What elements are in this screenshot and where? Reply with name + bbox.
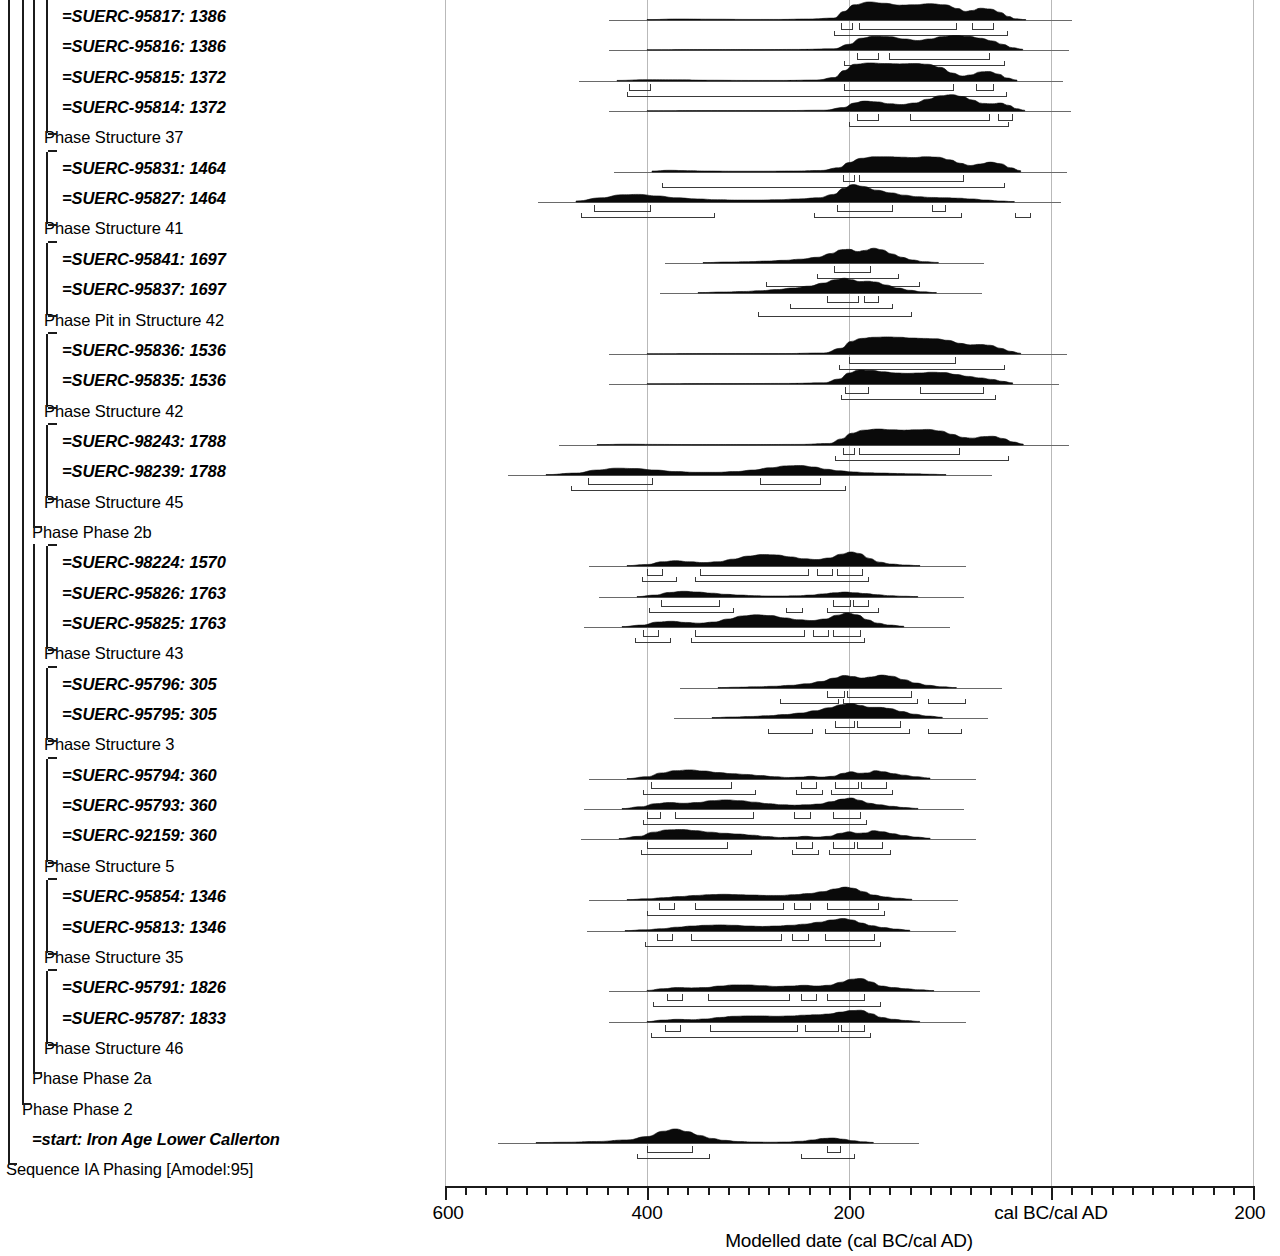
axis-tick-label: 200 [833, 1202, 864, 1224]
probability-distribution [618, 788, 922, 810]
date-row-label: =SUERC-95826: 1763 [62, 578, 226, 608]
probability-distribution [593, 424, 1027, 446]
phase-row-label: Phase Phase 2a [32, 1063, 152, 1093]
range-bar-95 [758, 312, 912, 317]
date-row-label: =SUERC-95837: 1697 [62, 274, 226, 304]
axis-major-tick [445, 1186, 447, 1200]
axis-minor-tick [506, 1186, 508, 1195]
date-row-label: =start: Iron Age Lower Callerton [32, 1124, 280, 1154]
structure-bracket [46, 668, 57, 741]
range-bar-68 [864, 296, 879, 303]
distribution-curve [536, 1129, 873, 1143]
probability-distribution [623, 879, 916, 901]
row-label-text: Phase Structure 41 [44, 219, 183, 237]
date-row-label: =SUERC-92159: 360 [62, 820, 217, 850]
row-label-text: Phase Phase 2b [32, 523, 152, 541]
structure-bracket [46, 759, 57, 862]
range-bar-95 [801, 1154, 856, 1159]
date-row-label: =SUERC-95854: 1346 [62, 881, 226, 911]
row-label-text: =start: Iron Age Lower Callerton [32, 1130, 280, 1148]
axis-minor-tick [970, 1186, 972, 1195]
distribution-curve [625, 918, 910, 931]
bracket-top-tick [48, 969, 57, 971]
axis-minor-tick [1233, 1186, 1235, 1195]
row-label-text: Phase Structure 37 [44, 128, 183, 146]
range-bar-95 [581, 213, 714, 218]
row-label-text: =SUERC-95841: 1697 [62, 250, 226, 268]
range-bar-95 [637, 1154, 710, 1159]
distribution-curve [647, 95, 1025, 111]
range-bar-68 [827, 296, 859, 303]
range-bar-68 [910, 114, 991, 121]
phase2a-bracket-line [33, 544, 35, 1074]
phase2a-bracket-foot [33, 1072, 42, 1074]
row-label-text: Phase Structure 5 [44, 857, 174, 875]
axis-minor-tick [950, 1186, 952, 1195]
probability-distribution [621, 910, 914, 932]
axis-minor-tick [748, 1186, 750, 1195]
bracket-bottom-tick [48, 953, 57, 955]
axis-minor-tick [809, 1186, 811, 1195]
model-label-column: =SUERC-95817: 1386=SUERC-95816: 1386=SUE… [0, 0, 440, 1180]
structure-bracket [46, 425, 57, 498]
range-bar-95 [849, 122, 1009, 127]
row-label-text: =SUERC-95826: 1763 [62, 584, 226, 602]
axis-minor-tick [829, 1186, 831, 1195]
range-bar-95 [825, 729, 910, 734]
row-label-text: =SUERC-95794: 360 [62, 766, 217, 784]
probability-distribution [643, 333, 1025, 355]
bracket-bottom-tick [48, 862, 57, 864]
axis-tick-label: cal BC/cal AD [994, 1202, 1108, 1224]
range-bar-95 [814, 213, 962, 218]
axis-minor-tick [607, 1186, 609, 1195]
axis-minor-tick [1132, 1186, 1134, 1195]
bracket-top-tick [48, 878, 57, 880]
axis-title: Modelled date (cal BC/cal AD) [445, 1230, 1253, 1252]
probability-distribution [643, 29, 1027, 51]
date-row-label: =SUERC-95827: 1464 [62, 183, 226, 213]
bracket-top-tick [48, 666, 57, 668]
probability-distribution [623, 545, 924, 567]
probability-distribution [714, 667, 960, 689]
probability-distribution [643, 1001, 924, 1023]
axis-minor-tick [1213, 1186, 1215, 1195]
axis-tick-label: 200 [1234, 1202, 1265, 1224]
axis-minor-tick [728, 1186, 730, 1195]
phase-row-label: Phase Structure 46 [44, 1033, 183, 1063]
date-row-label: =SUERC-95813: 1346 [62, 912, 226, 942]
axis-major-tick [647, 1186, 649, 1200]
axis-minor-tick [526, 1186, 528, 1195]
range-bar-68 [833, 630, 861, 637]
row-label-text: Phase Structure 46 [44, 1039, 183, 1057]
structure-bracket [46, 334, 57, 407]
probability-distribution [615, 818, 934, 840]
range-bar-95 [635, 638, 671, 643]
range-bar-68 [695, 630, 804, 637]
row-label-text: =SUERC-92159: 360 [62, 826, 217, 844]
range-bar-68 [588, 478, 653, 485]
date-row-label: =SUERC-95831: 1464 [62, 153, 226, 183]
axis-minor-tick [788, 1186, 790, 1195]
range-bar-95 [841, 395, 997, 400]
probability-distribution [633, 576, 922, 598]
row-label-text: =SUERC-95787: 1833 [62, 1009, 226, 1027]
axis-minor-tick [667, 1186, 669, 1195]
range-bar-68 [857, 721, 901, 728]
bracket-bottom-tick [48, 224, 57, 226]
bracket-top-tick [48, 241, 57, 243]
row-label-text: Phase Structure 43 [44, 644, 183, 662]
distribution-curve [698, 278, 936, 293]
row-label-text: =SUERC-95796: 305 [62, 675, 217, 693]
distribution-curve [647, 36, 1023, 50]
bracket-top-tick [48, 332, 57, 334]
range-bar-95 [792, 850, 818, 855]
probability-distribution [694, 272, 940, 294]
range-bar-68 [857, 842, 883, 849]
bracket-bottom-tick [48, 407, 57, 409]
row-label-text: =SUERC-95815: 1372 [62, 68, 226, 86]
range-bar-68 [932, 205, 946, 212]
distribution-curve [617, 63, 1017, 81]
distribution-curve [627, 552, 920, 566]
range-bar-68 [833, 842, 855, 849]
row-label-text: =SUERC-95793: 360 [62, 796, 217, 814]
